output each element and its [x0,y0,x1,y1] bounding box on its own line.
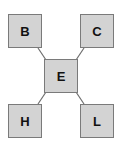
node-l: L [80,104,114,138]
node-c: C [80,14,114,48]
node-b-label: B [20,24,29,39]
node-h-label: H [20,114,29,129]
node-b: B [8,14,42,48]
edge-h-e [38,92,46,104]
node-h: H [8,104,42,138]
edge-l-e [76,92,84,104]
node-e: E [44,59,78,93]
node-e-label: E [57,69,66,84]
node-c-label: C [92,24,101,39]
node-l-label: L [93,114,101,129]
